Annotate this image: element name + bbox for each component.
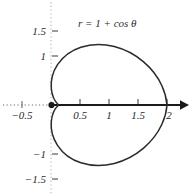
x-tick-label-1-5: 1.5 xyxy=(124,110,152,121)
y-tick-label-minus-1-5: −1.5 xyxy=(10,174,46,185)
polar-cardioid-figure: r = 1 + cos θ 1.5 1 −1 −1.5 −0.5 0.5 1 1… xyxy=(0,0,193,196)
x-tick-label-0-5: 0.5 xyxy=(66,110,94,121)
x-tick-label-minus-0-5: −0.5 xyxy=(4,110,40,121)
y-tick-label-1-5: 1.5 xyxy=(14,26,46,37)
y-tick-label-1: 1 xyxy=(14,51,46,62)
x-tick-label-1: 1 xyxy=(98,110,120,121)
x-axis-ticks xyxy=(80,99,167,104)
equation-annotation: r = 1 + cos θ xyxy=(78,18,136,29)
origin-dot xyxy=(48,102,54,108)
y-tick-label-minus-1: −1 xyxy=(12,149,46,160)
x-tick-label-2: 2 xyxy=(158,110,180,121)
x-axis-arrowhead xyxy=(180,100,189,109)
